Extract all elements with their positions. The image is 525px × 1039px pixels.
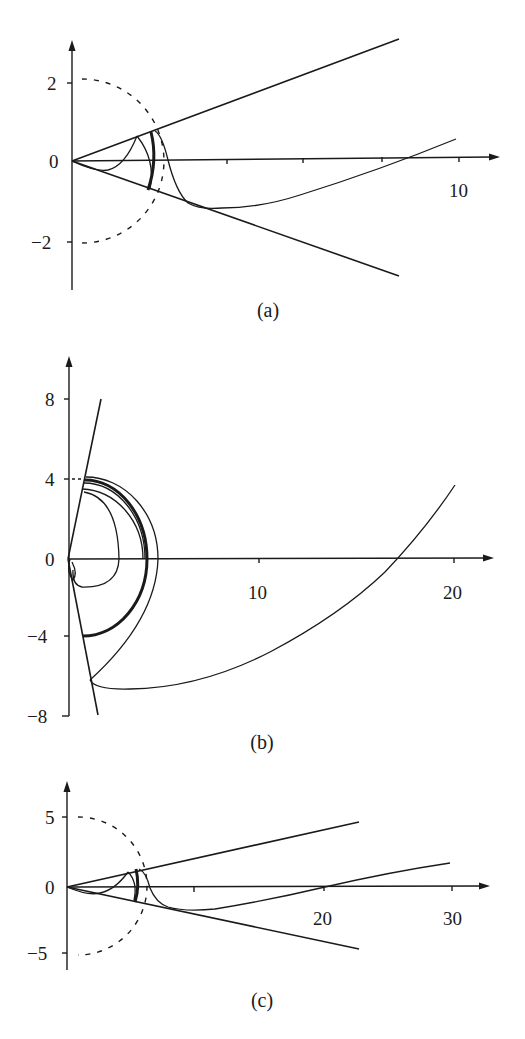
trajectory-main: [90, 485, 455, 689]
x-tick-label: 20: [443, 582, 462, 603]
panel-a: 2 0 −2 10 (a): [31, 39, 500, 322]
y-tick-label: 0: [49, 151, 59, 172]
y-tick-label: −4: [27, 626, 48, 647]
upper-boundary-line: [72, 39, 399, 161]
x-axis-arrow-icon: [489, 154, 500, 161]
y-axis-arrow-icon: [69, 40, 76, 51]
y-tick-label: 0: [45, 877, 55, 898]
trajectory-segment: [128, 872, 135, 900]
x-axis: [72, 157, 492, 161]
trajectory-main: [155, 131, 456, 208]
figure: 2 0 −2 10 (a) 8 4 0 −4 −8 10: [0, 0, 525, 1039]
y-tick-label: −8: [27, 706, 47, 727]
panel-caption: (b): [250, 731, 273, 754]
arc: [82, 489, 143, 559]
trajectory-bold-arc: [148, 132, 154, 190]
panel-caption: (c): [251, 989, 273, 1012]
y-tick-label: −5: [27, 943, 47, 964]
upper-boundary-line: [67, 822, 359, 887]
y-tick-label: −2: [31, 232, 51, 253]
x-tick-label: 10: [248, 582, 267, 603]
y-tick-label: 4: [45, 469, 55, 490]
y-tick-label: 8: [45, 389, 55, 410]
y-axis-arrow-icon: [66, 356, 73, 367]
y-axis-arrow-icon: [64, 781, 71, 792]
inner-arc: [73, 492, 119, 587]
x-tick-label: 30: [443, 908, 462, 929]
x-tick-label: 20: [313, 908, 332, 929]
y-tick-label: 5: [45, 807, 55, 828]
panel-b: 8 4 0 −4 −8 10 20 (b): [27, 356, 494, 754]
y-tick-label: 2: [47, 73, 57, 94]
y-tick-label: 0: [45, 549, 55, 570]
panel-caption: (a): [257, 299, 279, 322]
x-axis-arrow-icon: [479, 883, 490, 890]
x-axis: [67, 886, 482, 887]
panel-c: 5 0 −5 20 30 (c): [27, 781, 490, 1012]
x-axis-arrow-icon: [483, 555, 494, 562]
x-axis: [69, 558, 486, 559]
bold-arc: [83, 480, 147, 636]
x-tick-label: 10: [449, 180, 468, 201]
